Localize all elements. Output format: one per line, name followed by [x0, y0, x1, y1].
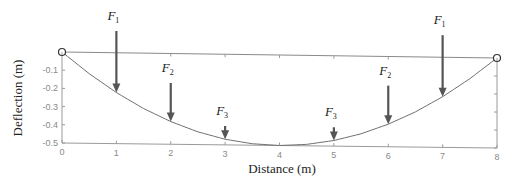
x-tick-label: 2: [168, 148, 173, 158]
x-axis-label: Distance (m): [248, 161, 316, 176]
y-tick-label: -0.1: [42, 65, 58, 75]
force-label: F3: [215, 103, 228, 120]
force-label: F2: [378, 63, 391, 80]
deflection-curve: [62, 52, 497, 146]
arrow-down-icon: [330, 132, 338, 141]
x-tick-label: 6: [386, 151, 391, 161]
force-arrow-f3: F3: [215, 103, 229, 139]
force-arrow-f3: F3: [324, 104, 338, 140]
y-axis-ticks: -0.1-0.2-0.3-0.4-0.5: [42, 65, 497, 148]
plot-area: [59, 49, 501, 149]
force-arrow-f2: F2: [161, 60, 175, 122]
x-tick-label: 4: [277, 150, 282, 160]
force-label: F1: [433, 12, 446, 29]
force-label: F3: [324, 104, 337, 121]
x-tick-label: 3: [223, 149, 228, 159]
y-axis-label: Deflection (m): [10, 60, 25, 137]
force-arrow-f2: F2: [378, 63, 392, 125]
x-tick-label: 8: [494, 152, 499, 162]
y-tick-label: -0.2: [42, 83, 58, 93]
force-arrow-f1: F1: [106, 8, 120, 93]
force-arrow-f1: F1: [433, 12, 447, 97]
arrow-down-icon: [221, 130, 229, 139]
x-tick-label: 1: [114, 148, 119, 158]
x-axis-ticks: 012345678: [59, 52, 499, 162]
force-label: F1: [106, 8, 119, 25]
y-tick-label: -0.4: [42, 120, 58, 130]
force-label: F2: [161, 60, 174, 77]
y-tick-label: -0.5: [42, 138, 58, 148]
y-tick-label: -0.3: [42, 102, 58, 112]
x-tick-label: 0: [59, 147, 64, 157]
deflection-chart: 012345678 -0.1-0.2-0.3-0.4-0.5 F1F2F3F3F…: [0, 0, 525, 180]
x-tick-label: 5: [331, 150, 336, 160]
x-tick-label: 7: [440, 151, 445, 161]
